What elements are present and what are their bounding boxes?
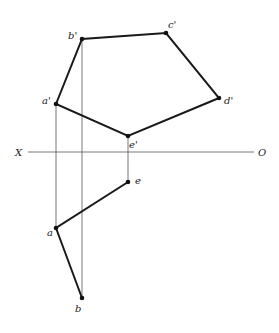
axis-label-x: X — [14, 147, 23, 158]
point-e-prime — [126, 134, 131, 139]
label-e-prime: e' — [129, 139, 138, 150]
label-b: b — [75, 303, 81, 314]
top-view-polyline — [56, 182, 128, 298]
point-b-prime — [80, 37, 85, 42]
axis-label-o: O — [258, 147, 266, 158]
point-e — [126, 180, 131, 185]
point-c-prime — [164, 31, 169, 36]
point-d-prime — [217, 96, 222, 101]
orthographic-projection-diagram: b' c' d' a' e' X O e a b — [0, 0, 279, 333]
point-b — [80, 296, 85, 301]
point-a — [54, 226, 59, 231]
point-a-prime — [54, 102, 59, 107]
label-c-prime: c' — [168, 19, 176, 30]
front-view-pentagon — [56, 33, 219, 136]
label-d-prime: d' — [224, 95, 233, 106]
label-a: a — [47, 227, 53, 238]
label-a-prime: a' — [42, 95, 51, 106]
label-e: e — [135, 175, 141, 186]
label-b-prime: b' — [68, 30, 77, 41]
